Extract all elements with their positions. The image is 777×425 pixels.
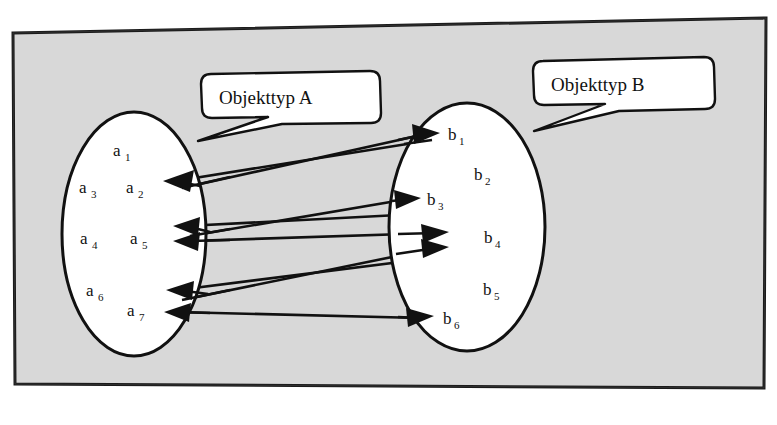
element-a7-subscript: 7 xyxy=(139,311,145,323)
diagram-canvas: a 1 a 2 a 3 a 4 a 5 a 6 a 7 b xyxy=(0,0,777,425)
element-b5-label: b xyxy=(483,280,492,299)
callout-b-label: Objekttyp B xyxy=(551,74,644,95)
element-a3-subscript: 3 xyxy=(91,188,97,200)
element-a6-subscript: 6 xyxy=(98,291,104,303)
element-a6-label: a xyxy=(86,281,94,300)
element-b1-subscript: 1 xyxy=(459,135,465,147)
element-a1-subscript: 1 xyxy=(125,151,131,163)
element-a7-label: a xyxy=(127,301,135,320)
element-b3-subscript: 3 xyxy=(438,200,444,212)
callout-a-label: Objekttyp A xyxy=(219,87,313,108)
element-b1-label: b xyxy=(448,125,457,144)
element-b5-subscript: 5 xyxy=(494,290,500,302)
element-b4-subscript: 4 xyxy=(495,238,501,250)
diagram-svg: a 1 a 2 a 3 a 4 a 5 a 6 a 7 b xyxy=(0,0,777,425)
element-a1-label: a xyxy=(113,141,121,160)
element-a5-label: a xyxy=(130,229,138,248)
element-b2-label: b xyxy=(474,165,483,184)
element-a2-subscript: 2 xyxy=(138,188,144,200)
element-a4-subscript: 4 xyxy=(92,239,98,251)
element-a4-label: a xyxy=(80,229,88,248)
element-a3-label: a xyxy=(79,178,87,197)
element-b2-subscript: 2 xyxy=(485,175,491,187)
element-b3-label: b xyxy=(427,190,436,209)
element-a5-subscript: 5 xyxy=(142,239,148,251)
element-b6-subscript: 6 xyxy=(454,319,460,331)
element-a2-label: a xyxy=(126,178,134,197)
element-b4-label: b xyxy=(484,228,493,247)
element-b6-label: b xyxy=(443,309,452,328)
